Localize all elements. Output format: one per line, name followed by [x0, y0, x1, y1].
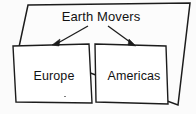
label-europe: Europe: [34, 70, 75, 83]
diagram-canvas: Earth Movers Europe Americas: [0, 0, 196, 114]
label-americas: Americas: [108, 70, 161, 83]
scan-speck: [64, 96, 66, 97]
label-earth-movers: Earth Movers: [62, 10, 141, 23]
